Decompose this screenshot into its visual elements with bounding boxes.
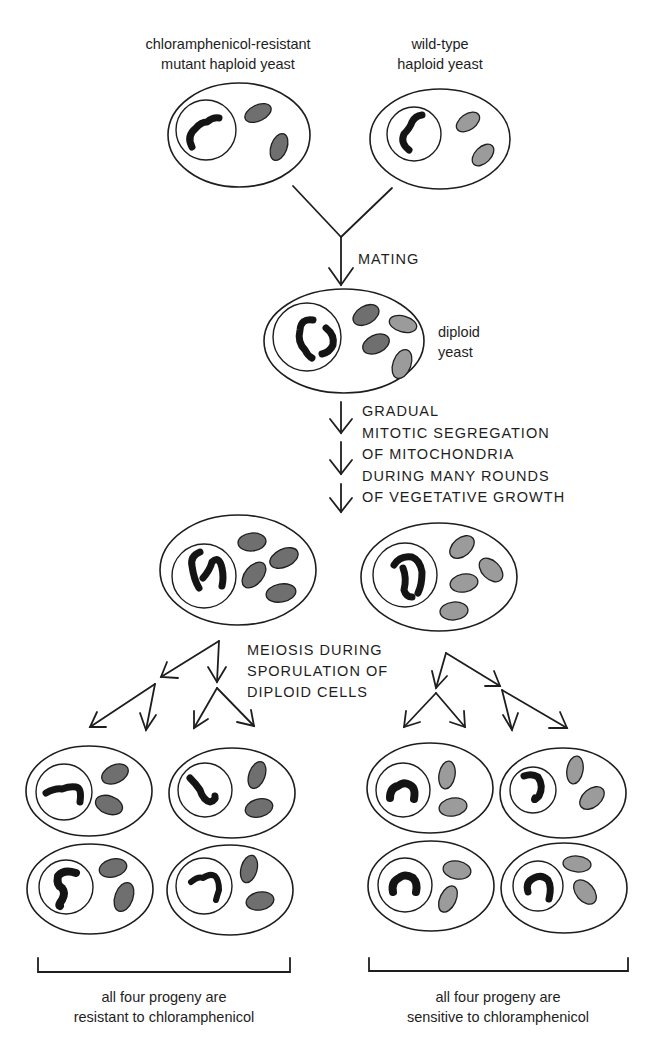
segregation-label: GRADUAL MITOTIC SEGREGATION OF MITOCHOND…: [362, 403, 565, 505]
segregation-line-3: OF MITOCHONDRIA: [362, 446, 514, 462]
sensitive-progeny-group: [367, 743, 627, 933]
mating-arrow: [293, 186, 392, 285]
nucleus: [178, 763, 232, 817]
progeny-cell-sensitive-3: [368, 841, 494, 931]
segregation-line-4: DURING MANY ROUNDS: [362, 468, 550, 484]
nucleus: [376, 763, 430, 817]
mating-label: MATING: [358, 251, 419, 267]
nucleus: [378, 858, 432, 912]
diploid-label-line2: yeast: [438, 344, 473, 360]
diploid-wildtype-mitochondria-cell: [361, 523, 517, 631]
progeny-cell-sensitive-2: [500, 748, 626, 838]
segregation-line-1: GRADUAL: [362, 403, 439, 419]
segregation-arrows: [330, 402, 352, 512]
segregation-line-2: MITOTIC SEGREGATION: [362, 425, 550, 441]
sensitive-caption-line1: all four progeny are: [436, 989, 561, 1005]
meiosis-line-3: DIPLOID CELLS: [247, 684, 368, 700]
yeast-mitochondrial-inheritance-diagram: chloramphenicol-resistant mutant haploid…: [0, 0, 658, 1054]
meiosis-arrows-right: [404, 653, 567, 730]
progeny-cell-sensitive-4: [501, 843, 627, 933]
nucleus: [176, 858, 232, 914]
segregation-line-5: OF VEGETATIVE GROWTH: [362, 489, 565, 505]
meiosis-label: MEIOSIS DURING SPORULATION OF DIPLOID CE…: [247, 642, 388, 700]
resistant-caption-line1: all four progeny are: [102, 989, 227, 1005]
meiosis-arrows-left: [90, 641, 254, 730]
progeny-cell-resistant-2: [169, 748, 295, 838]
progeny-cell-resistant-3: [27, 844, 153, 934]
resistant-bracket: [38, 958, 290, 972]
progeny-cell-resistant-4: [167, 845, 293, 935]
wildtype-haploid-cell: [370, 89, 510, 189]
resistant-progeny-group: [26, 746, 295, 935]
meiosis-line-2: SPORULATION OF: [247, 663, 388, 679]
progeny-cell-sensitive-1: [367, 743, 493, 833]
diploid-label-line1: diploid: [438, 324, 480, 340]
mutant-haploid-cell: [168, 83, 310, 187]
sensitive-bracket: [369, 958, 628, 971]
mutant-parent-label-line1: chloramphenicol-resistant: [145, 36, 310, 52]
progeny-cell-resistant-1: [26, 746, 152, 836]
wildtype-parent-label-line1: wild-type: [410, 36, 468, 52]
mutant-parent-label-line2: mutant haploid yeast: [161, 56, 295, 72]
meiosis-line-1: MEIOSIS DURING: [247, 642, 383, 658]
resistant-caption-line2: resistant to chloramphenicol: [74, 1009, 255, 1025]
nucleus: [176, 100, 236, 160]
diploid-mutant-mitochondria-cell: [160, 515, 316, 625]
nucleus: [513, 861, 563, 911]
diploid-cell: [264, 289, 424, 393]
sensitive-caption-line2: sensitive to chloramphenicol: [407, 1009, 589, 1025]
wildtype-parent-label-line2: haploid yeast: [397, 56, 482, 72]
